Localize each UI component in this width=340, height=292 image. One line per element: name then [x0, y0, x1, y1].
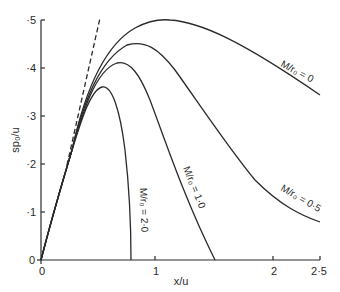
curves: [41, 18, 320, 260]
curve-m2: [41, 87, 131, 260]
y-tick-label: ·4: [26, 62, 36, 74]
curve-label-m05: M/r₀ = 0·5: [279, 182, 323, 214]
x-tick-label: 2·5: [311, 265, 327, 277]
y-tick-label: ·5: [26, 14, 36, 26]
y-tick-label: ·2: [26, 158, 36, 170]
x-axis-title: x/u: [174, 275, 189, 287]
axes: [37, 20, 320, 264]
curve-m1: [41, 63, 215, 260]
curve-label-m1: M/r₀ = 1·0: [181, 165, 208, 211]
y-tick-label: 0: [29, 254, 35, 266]
y-tick-labels: ·5 ·4 ·3 ·2 ·1 0: [26, 14, 36, 266]
curve-m0: [41, 20, 320, 260]
curve-label-m2: M/r₀ = 2·0: [138, 188, 151, 233]
curve-m05: [41, 44, 320, 260]
y-tick-label: ·1: [26, 206, 36, 218]
x-tick-label: 0: [39, 265, 45, 277]
x-tick-label: 1: [153, 265, 159, 277]
y-tick-label: ·3: [26, 110, 36, 122]
y-axis-title: sp₀/u: [9, 127, 21, 152]
curve-labels: M/r₀ = 0 M/r₀ = 0·5 M/r₀ = 1·0 M/r₀ = 2·…: [138, 58, 323, 233]
x-tick-label: 2: [271, 265, 277, 277]
line-chart: ·5 ·4 ·3 ·2 ·1 0 0 1 2 2·5 x/u sp₀/u M/r…: [0, 0, 340, 292]
